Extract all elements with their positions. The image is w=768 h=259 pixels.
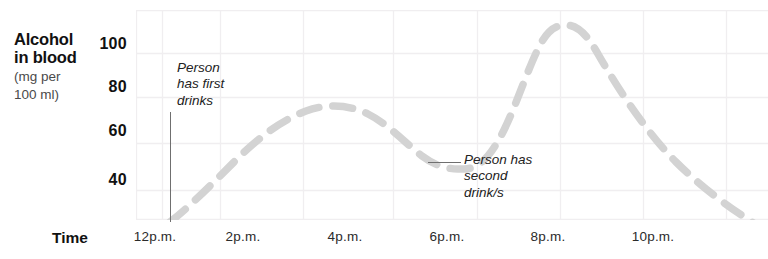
annotation-second-drinks-leader: [428, 162, 461, 163]
annotation-first-drinks-leader: [170, 112, 171, 222]
x-tick-8pm: 8p.m.: [531, 229, 566, 244]
chart-figure: Alcohol in blood (mg per 100 ml) 100 80 …: [0, 0, 768, 259]
annotation-second-drinks-label: Person has second drink/s: [464, 152, 532, 201]
x-axis-title: Time: [52, 229, 88, 247]
y-tick-60: 60: [85, 122, 127, 140]
y-tick-100: 100: [85, 35, 127, 53]
blood-alcohol-curve: [136, 10, 768, 220]
y-tick-80: 80: [85, 78, 127, 96]
annotation-first-drinks-label: Person has first drinks: [177, 60, 224, 109]
x-tick-12pm: 12p.m.: [134, 229, 176, 244]
x-tick-2pm: 2p.m.: [226, 229, 261, 244]
x-tick-6pm: 6p.m.: [430, 229, 465, 244]
y-axis-tick-labels: 100 80 60 40: [85, 0, 127, 259]
x-tick-4pm: 4p.m.: [328, 229, 363, 244]
x-tick-10pm: 10p.m.: [632, 229, 674, 244]
plot-area: [136, 10, 768, 220]
y-tick-40: 40: [85, 171, 127, 189]
